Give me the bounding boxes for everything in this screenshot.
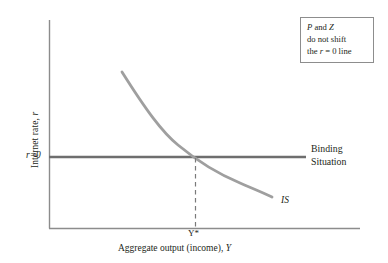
note-line-2: do not shift [307, 34, 368, 46]
binding-situation-line1: Binding [311, 143, 343, 154]
x-axis-label-variable: Y [226, 243, 231, 253]
r-zero-tick-label: r=0 [26, 150, 41, 161]
note-line1-conjunction: and [312, 22, 329, 32]
binding-situation-line2: Situation [311, 156, 346, 167]
note-line3-suffix: = 0 line [323, 46, 351, 56]
x-axis-label-text: Aggregate output (income), [118, 243, 226, 253]
note-variable-z: Z [329, 22, 334, 32]
note-line-1: P and Z [307, 22, 368, 34]
note-line3-prefix: the [307, 46, 320, 56]
is-curve-figure: Internet rate, r r=0 Aggregate output (i… [0, 0, 388, 263]
x-axis-label: Aggregate output (income), Y [118, 243, 231, 254]
is-curve [122, 72, 272, 197]
equilibrium-output-label: Y* [188, 228, 199, 239]
annotation-note-box: P and Z do not shift the r = 0 line [300, 17, 374, 63]
y-axis-label-variable: r [30, 112, 40, 116]
note-line-3: the r = 0 line [307, 46, 368, 58]
binding-situation-label: Binding Situation [311, 143, 346, 169]
is-curve-label: IS [281, 195, 289, 206]
